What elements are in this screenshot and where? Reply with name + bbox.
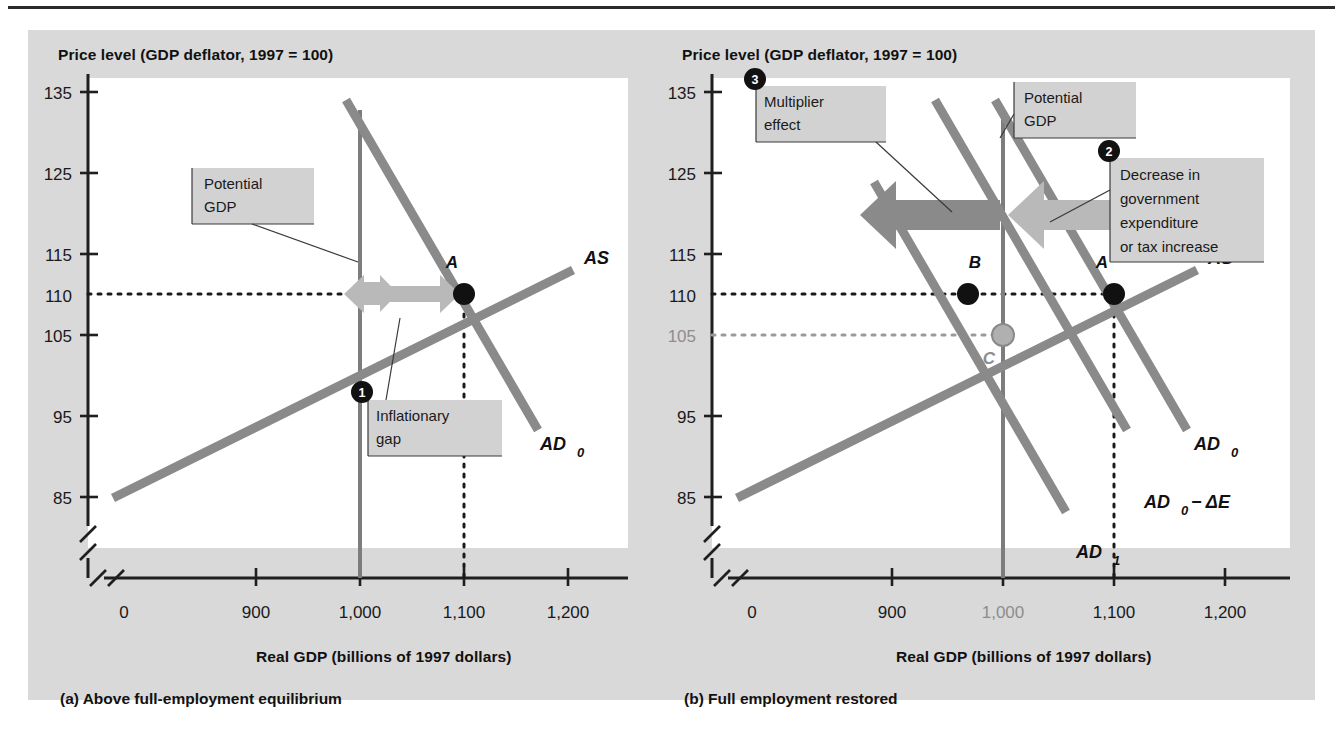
- ad0-label-sub-b: 0: [1231, 445, 1239, 460]
- callout-decrease-line1: Decrease in: [1120, 166, 1200, 183]
- x-tick-label: 0: [119, 603, 128, 622]
- y-tick-label: 95: [677, 408, 696, 427]
- panel-b: Price level (GDP deflator, 1997 = 100) 1…: [652, 30, 1315, 700]
- callout-potential-gdp-b: Potential GDP: [1000, 82, 1136, 138]
- x-tick-label: 1,000: [339, 603, 382, 622]
- callout-potential-gdp-b-line1: Potential: [1024, 89, 1082, 106]
- panel-b-caption: (b) Full employment restored: [684, 690, 898, 708]
- ad0-curve-label-base: AD: [539, 434, 566, 454]
- callout-inflationary-gap-line2: gap: [376, 430, 401, 447]
- y-tick-label: 135: [668, 84, 696, 103]
- panel-a-x-axis-title: Real GDP (billions of 1997 dollars): [256, 648, 512, 666]
- addelta-label-base: AD: [1143, 492, 1170, 512]
- y-tick-label: 125: [44, 165, 72, 184]
- y-tick-label: 85: [53, 489, 72, 508]
- y-tick-label: 105: [44, 327, 72, 346]
- addelta-label-tail: − ΔE: [1191, 492, 1231, 512]
- x-tick-label: 1,200: [547, 603, 590, 622]
- y-tick-label: 115: [669, 246, 696, 265]
- y-tick-label: 115: [45, 246, 72, 265]
- x-tick-label: 1,100: [443, 603, 486, 622]
- y-tick-label-muted: 105: [668, 327, 696, 346]
- point-a-label: A: [445, 253, 458, 272]
- point-b-label: B: [969, 253, 981, 272]
- top-divider-rule: [8, 6, 1335, 9]
- panel-a-caption: (a) Above full-employment equilibrium: [60, 690, 342, 708]
- callout-potential-gdp-line1: Potential: [204, 175, 262, 192]
- callout-potential-gdp-b-line2: GDP: [1024, 112, 1057, 129]
- point-a-marker: [453, 283, 475, 305]
- callout-decrease-line3: expenditure: [1120, 214, 1198, 231]
- callout-potential-gdp-line2: GDP: [204, 198, 237, 215]
- x-tick-label: 0: [747, 603, 756, 622]
- figure-root: Price level (GDP deflator, 1997 = 100): [0, 0, 1343, 736]
- callout-decrease-line2: government: [1120, 190, 1200, 207]
- point-c-marker: [992, 324, 1014, 346]
- badge-2-text-b: 2: [1106, 145, 1113, 159]
- x-tick-label: 1,200: [1204, 603, 1247, 622]
- x-tick-label-muted: 1,000: [982, 603, 1025, 622]
- y-tick-label: 85: [677, 489, 696, 508]
- ad1-label-sub: 1: [1113, 553, 1120, 568]
- callout-multiplier-line2: effect: [764, 116, 801, 133]
- badge-3-text-b: 3: [752, 73, 759, 87]
- x-tick-label: 900: [878, 603, 906, 622]
- panel-b-chart: 135 125 115 110 105 95 85 0 900 1,000 1,…: [652, 30, 1315, 700]
- x-tick-label: 900: [242, 603, 270, 622]
- panel-b-x-axis-title: Real GDP (billions of 1997 dollars): [896, 648, 1152, 666]
- badge-1-text-a: 1: [359, 386, 366, 400]
- y-tick-label: 135: [44, 84, 72, 103]
- as-curve-label-a: AS: [583, 248, 609, 268]
- ad0-curve-label-subscript: 0: [577, 445, 585, 460]
- addelta-label-sub: 0: [1181, 503, 1189, 518]
- point-a-marker-b: [1103, 283, 1125, 305]
- y-tick-label: 110: [669, 287, 696, 306]
- callout-multiplier-line1: Multiplier: [764, 93, 824, 110]
- callout-inflationary-gap-line1: Inflationary: [376, 407, 450, 424]
- x-tick-label: 1,100: [1093, 603, 1136, 622]
- point-c-label: C: [983, 349, 996, 368]
- callout-decrease-line4: or tax increase: [1120, 238, 1218, 255]
- ad1-label-base: AD: [1075, 542, 1102, 562]
- panel-a: Price level (GDP deflator, 1997 = 100): [28, 30, 652, 700]
- panel-a-chart: 135 125 115 110 105 95 85 0 900 1,000 1,…: [28, 30, 652, 700]
- ad0-label-base-b: AD: [1193, 434, 1220, 454]
- y-tick-label: 125: [668, 165, 696, 184]
- y-tick-label: 110: [45, 287, 72, 306]
- point-a-label-b: A: [1095, 253, 1108, 272]
- point-b-marker: [957, 283, 979, 305]
- y-tick-label: 95: [53, 408, 72, 427]
